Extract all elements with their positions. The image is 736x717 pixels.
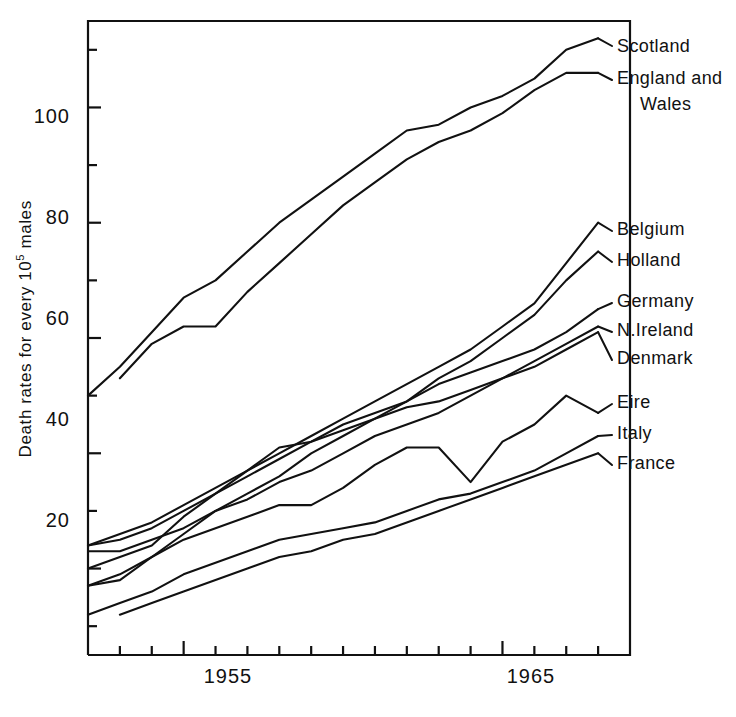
y-tick-label-80: 80 (18, 206, 70, 229)
series-label-italy: Italy (617, 423, 652, 444)
series-label-england-wales: England and (617, 68, 723, 89)
y-tick-label-100: 100 (18, 105, 70, 128)
y-axis-title-exponent: 5 (14, 254, 26, 261)
series-leader-denmark (598, 332, 612, 360)
series-leader-holland (598, 252, 612, 262)
series-line-n-ireland (88, 327, 598, 569)
series-label-france: France (617, 453, 675, 474)
y-tick-label-60: 60 (18, 307, 70, 330)
y-tick-label-40: 40 (18, 408, 70, 431)
series-label-denmark: Denmark (617, 348, 693, 369)
series-line-germany (88, 309, 598, 545)
series-label-eire: Eire (617, 392, 651, 413)
series-line-italy (88, 436, 598, 615)
series-label-belgium: Belgium (617, 219, 685, 240)
series-line-scotland (88, 38, 598, 395)
series-leader-belgium (598, 223, 612, 231)
series-label-england-wales-line2: Wales (640, 94, 691, 115)
x-tick-label-1955: 1955 (183, 665, 273, 688)
series-line-holland (88, 252, 598, 552)
y-tick-label-20: 20 (18, 509, 70, 532)
series-leader-germany (598, 303, 612, 309)
series-leader-italy (598, 435, 612, 436)
series-leader-eire (598, 404, 612, 413)
axis-frame (88, 21, 630, 655)
series-line-denmark (88, 332, 598, 586)
x-tick-label-1965: 1965 (486, 665, 576, 688)
series-label-germany: Germany (617, 291, 694, 312)
series-line-england-and-wales (120, 73, 598, 378)
chart-figure: Death rates for every 105 males 100 80 6… (0, 0, 736, 717)
series-leader-n-ireland (598, 326, 612, 332)
series-leader-france (598, 453, 612, 465)
series-leader-scotland (598, 38, 612, 46)
series-label-scotland: Scotland (617, 36, 690, 57)
series-leader-england-and-wales (598, 73, 612, 80)
series-label-holland: Holland (617, 250, 681, 271)
series-line-belgium (88, 223, 598, 546)
series-label-nireland: N.Ireland (617, 320, 694, 341)
